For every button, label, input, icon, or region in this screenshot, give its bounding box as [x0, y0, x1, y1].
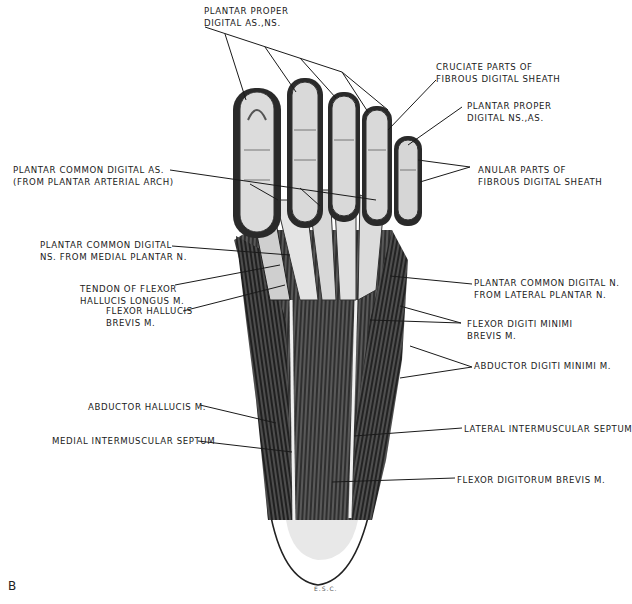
- label-plantar-common-digital-as: PLANTAR COMMON DIGITAL AS. (FROM PLANTAR…: [13, 164, 174, 188]
- toe-1-hallux: [233, 88, 281, 238]
- panel-letter: B: [8, 579, 16, 593]
- toe-3: [328, 92, 360, 222]
- toe-2: [287, 78, 323, 228]
- artist-signature: E.S.C.: [314, 585, 338, 592]
- label-flexor-digiti-minimi-brevis: FLEXOR DIGITI MINIMI BREVIS M.: [467, 318, 573, 342]
- toe-4: [362, 106, 392, 226]
- label-abductor-hallucis: ABDUCTOR HALLUCIS M.: [88, 401, 206, 413]
- label-abductor-digiti-minimi: ABDUCTOR DIGITI MINIMI M.: [474, 360, 611, 372]
- label-plantar-common-digital-n-lateral: PLANTAR COMMON DIGITAL N. FROM LATERAL P…: [474, 277, 620, 301]
- label-plantar-proper-digital-as-ns: PLANTAR PROPER DIGITAL AS.,NS.: [204, 5, 289, 29]
- label-anular-parts: ANULAR PARTS OF FIBROUS DIGITAL SHEATH: [478, 164, 602, 188]
- label-lateral-intermuscular-septum: LATERAL INTERMUSCULAR SEPTUM: [464, 423, 632, 435]
- label-plantar-proper-digital-ns-as: PLANTAR PROPER DIGITAL NS.,AS.: [467, 100, 552, 124]
- label-tendon-flexor-hallucis-longus: TENDON OF FLEXOR HALLUCIS LONGUS M.: [80, 283, 176, 307]
- label-cruciate-parts: CRUCIATE PARTS OF FIBROUS DIGITAL SHEATH: [436, 61, 560, 85]
- toe-5: [394, 136, 422, 226]
- label-plantar-common-digital-ns-medial: PLANTAR COMMON DIGITAL NS. FROM MEDIAL P…: [40, 239, 187, 263]
- label-flexor-digitorum-brevis: FLEXOR DIGITORUM BREVIS M.: [457, 474, 605, 486]
- label-flexor-hallucis-brevis: FLEXOR HALLUCIS BREVIS M.: [106, 305, 193, 329]
- label-medial-intermuscular-septum: MEDIAL INTERMUSCULAR SEPTUM: [52, 435, 215, 447]
